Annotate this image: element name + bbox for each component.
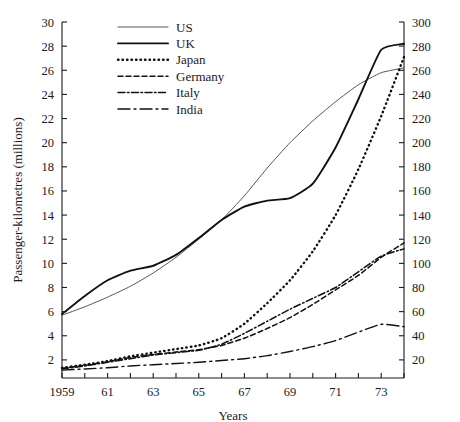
legend-entry-india: India [118,102,203,117]
y-tick-label-right: 260 [412,64,431,78]
y-tick-label-right: 20 [412,353,425,367]
legend-label-uk: UK [176,36,195,51]
y-tick-label-right: 60 [412,305,425,319]
legend-label-us: US [176,20,193,35]
x-tick-label: 69 [284,385,297,399]
series-line-italy [62,249,404,369]
y-tick-label-right: 300 [412,16,431,30]
y-tick-label-left: 4 [48,329,55,343]
y-tick-label-left: 14 [42,209,55,223]
legend-entry-germany: Germany [118,69,225,84]
legend-entry-uk: UK [118,36,195,51]
x-tick-label: 73 [375,385,388,399]
y-tick-label-left: 12 [42,233,55,247]
y-tick-label-right: 180 [412,160,431,174]
y-tick-label-right: 280 [412,40,431,54]
x-tick-label: 65 [193,385,206,399]
x-tick-label: 71 [329,385,342,399]
chart-legend: USUKJapanGermanyItalyIndia [118,20,225,117]
legend-label-italy: Italy [176,85,200,100]
legend-entry-italy: Italy [118,85,200,100]
y-tick-label-right: 120 [412,233,431,247]
series-line-germany [62,243,404,369]
x-axis-title: Years [218,408,247,422]
y-tick-label-right: 160 [412,184,431,198]
legend-label-germany: Germany [176,69,225,84]
x-tick-label: 61 [101,385,114,399]
y-tick-label-right: 220 [412,112,431,126]
y-tick-label-left: 10 [42,257,55,271]
y-tick-label-left: 26 [42,64,55,78]
series-line-uk [62,44,404,314]
y-tick-label-left: 8 [48,281,54,295]
y-tick-label-left: 6 [48,305,54,319]
x-tick-label: 1959 [50,385,75,399]
y-tick-label-left: 18 [42,160,55,174]
y-tick-label-left: 22 [42,112,55,126]
y-tick-label-right: 140 [412,209,431,223]
y-tick-label-right: 40 [412,329,425,343]
y-axis-title: Passenger-kilometres (millions) [10,117,25,282]
legend-label-india: India [176,102,203,117]
y-tick-label-left: 16 [42,184,55,198]
y-tick-label-left: 28 [42,40,55,54]
y-tick-label-left: 24 [42,88,55,102]
legend-label-japan: Japan [176,52,206,67]
x-tick-label: 63 [147,385,160,399]
x-tick-label: 67 [238,385,251,399]
y-tick-label-right: 240 [412,88,431,102]
y-tick-label-left: 20 [42,136,55,150]
y-tick-label-left: 30 [42,16,55,30]
series-lines [62,44,404,370]
legend-entry-japan: Japan [118,52,206,67]
legend-entry-us: US [118,20,193,35]
y-tick-label-right: 200 [412,136,431,150]
chart-container: 2468101214161820222426283020406080100120… [0,0,460,422]
line-chart: 2468101214161820222426283020406080100120… [0,0,460,422]
y-tick-label-right: 100 [412,257,431,271]
y-tick-label-right: 80 [412,281,425,295]
y-tick-label-left: 2 [48,353,54,367]
